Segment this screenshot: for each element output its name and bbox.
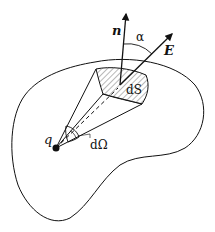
solid-angle-leader [78,134,90,138]
area-label: dS [126,84,142,96]
solid-angle-label: dΩ [90,139,108,151]
angle-label: α [136,31,144,43]
field-label: E [164,44,174,57]
point-charge [53,145,60,152]
angle-arc [123,44,152,54]
charge-label: q [44,133,52,146]
normal-label: n [112,24,121,37]
diagram-svg [0,0,215,232]
gauss-flux-diagram: n E α dS dΩ q [0,0,215,232]
